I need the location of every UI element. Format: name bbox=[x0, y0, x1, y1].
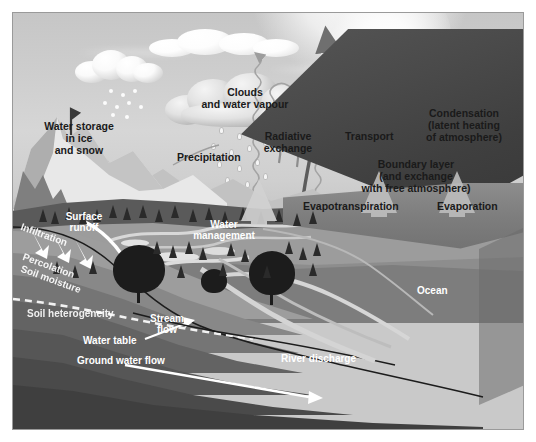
label-ocean: Ocean bbox=[417, 285, 448, 296]
label-stream-flow: Stream flow bbox=[141, 313, 193, 335]
label-evaporation: Evaporation bbox=[437, 201, 498, 213]
label-soil-heterogeneity: Soil heterogeneity bbox=[27, 308, 114, 319]
label-clouds: Clouds and water vapour bbox=[189, 87, 301, 111]
label-water-storage: Water storage in ice and snow bbox=[27, 121, 131, 156]
label-river-discharge: River discharge bbox=[281, 353, 356, 364]
diagram-frame: Clouds and water vapour Precipitation Wa… bbox=[12, 12, 524, 430]
label-transport: Transport bbox=[345, 131, 393, 143]
label-evapotranspiration: Evapotranspiration bbox=[303, 201, 399, 213]
label-radiative-exchange: Radiative exchange bbox=[255, 131, 321, 155]
label-surface-runoff: Surface runoff bbox=[49, 211, 119, 233]
label-ground-water-flow: Ground water flow bbox=[77, 355, 165, 366]
label-condensation: Condensation (latent heating of atmosphe… bbox=[403, 108, 524, 143]
figure-canvas: Clouds and water vapour Precipitation Wa… bbox=[0, 0, 536, 442]
label-water-table: Water table bbox=[83, 335, 137, 346]
label-boundary-layer: Boundary layer (and exchange with free a… bbox=[343, 159, 489, 194]
label-water-management: Water management bbox=[177, 219, 271, 241]
label-precipitation: Precipitation bbox=[177, 152, 241, 164]
